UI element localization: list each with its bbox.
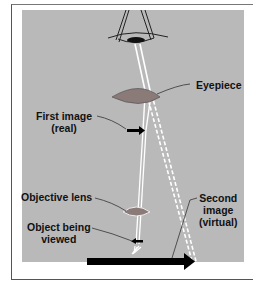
eyepiece-lens-icon — [112, 89, 160, 104]
light-rays — [132, 44, 197, 265]
label-first-image-line1: First image — [36, 110, 92, 122]
object-arrow-icon — [131, 238, 143, 244]
second-image-arrow-icon — [87, 253, 195, 270]
label-object-line2: viewed — [27, 233, 91, 245]
label-second-image: Second image (virtual) — [199, 192, 238, 228]
eye-icon — [108, 10, 168, 43]
label-second-image-line2: image — [199, 204, 238, 216]
objective-lens-icon — [123, 207, 150, 216]
label-objective-lens: Objective lens — [21, 191, 92, 203]
label-second-image-line1: Second — [199, 192, 238, 204]
label-first-image: First image (real) — [36, 110, 92, 134]
label-first-image-line2: (real) — [36, 122, 92, 134]
label-second-image-line3: (virtual) — [199, 216, 238, 228]
label-object-line1: Object being — [27, 221, 91, 233]
label-object-being-viewed: Object being viewed — [27, 221, 91, 245]
label-eyepiece: Eyepiece — [196, 79, 242, 91]
